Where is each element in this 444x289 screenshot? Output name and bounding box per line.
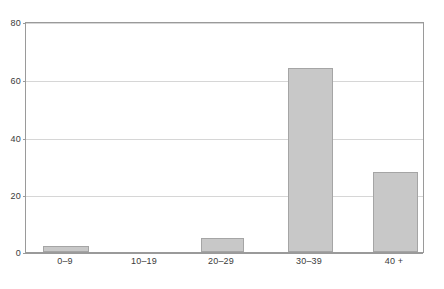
xtick-label-0-9: 0–9 bbox=[57, 256, 73, 266]
bar-chart: 80 60 40 20 0 bbox=[0, 0, 444, 289]
bar-slot-3 bbox=[288, 23, 333, 252]
xtick-label-30-39: 30–39 bbox=[296, 256, 322, 266]
bar-0-9[interactable] bbox=[43, 246, 89, 252]
bars-group bbox=[26, 23, 423, 252]
bar-30-39[interactable] bbox=[288, 68, 333, 252]
ytick-label-20: 20 bbox=[11, 191, 21, 201]
gridline-0 bbox=[26, 253, 423, 254]
bar-20-29[interactable] bbox=[201, 238, 244, 252]
bar-40-plus[interactable] bbox=[373, 172, 418, 253]
xtick-label-40-plus: 40 + bbox=[385, 256, 404, 266]
ytick-label-60: 60 bbox=[11, 76, 21, 86]
xtick-label-20-29: 20–29 bbox=[208, 256, 234, 266]
ytick-label-40: 40 bbox=[11, 134, 21, 144]
ytick-label-80: 80 bbox=[11, 18, 21, 28]
bar-slot-1 bbox=[122, 23, 168, 252]
bar-slot-4 bbox=[373, 23, 418, 252]
plot-area: 80 60 40 20 0 bbox=[25, 22, 424, 253]
x-axis-labels: 0–9 10–19 20–29 30–39 40 + bbox=[25, 256, 424, 276]
xtick-label-10-19: 10–19 bbox=[131, 256, 157, 266]
bar-slot-2 bbox=[201, 23, 244, 252]
ytick-mark-0 bbox=[23, 253, 26, 254]
bar-slot-0 bbox=[43, 23, 89, 252]
ytick-label-0: 0 bbox=[16, 248, 21, 258]
